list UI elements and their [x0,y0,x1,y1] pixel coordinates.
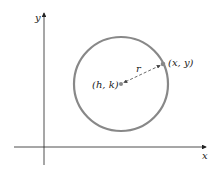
center-label: (h, k) [92,79,119,90]
radius-label: r [136,63,142,74]
circle-diagram: y x (h, k) (x, y) r [0,0,224,176]
y-axis-label: y [34,12,41,23]
radius-line [124,66,160,83]
center-point [119,82,123,86]
circle-point [161,62,166,67]
x-axis-label: x [202,150,208,161]
point-label: (x, y) [168,57,194,68]
